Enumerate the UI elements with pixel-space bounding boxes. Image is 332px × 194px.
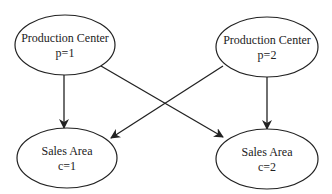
diagram-canvas: Production Center p=1 Production Center … (0, 0, 332, 194)
node-title: Production Center (21, 31, 109, 45)
node-label: p=2 (258, 48, 277, 62)
edge-p1-c2 (101, 66, 223, 137)
node-sales-area-1: Sales Area c=1 (17, 128, 117, 188)
node-title: Sales Area (242, 145, 294, 159)
node-label: c=2 (258, 160, 276, 174)
node-label: p=1 (56, 46, 75, 60)
node-sales-area-2: Sales Area c=2 (216, 129, 318, 189)
node-title: Sales Area (42, 144, 94, 158)
node-production-center-1: Production Center p=1 (15, 15, 115, 75)
node-title: Production Center (223, 33, 311, 47)
node-label: c=1 (58, 159, 76, 173)
node-production-center-2: Production Center p=2 (216, 17, 318, 77)
